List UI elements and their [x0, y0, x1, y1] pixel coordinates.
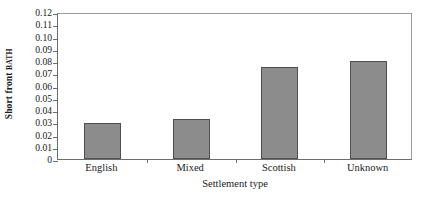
- y-axis-tick-mark: [53, 14, 58, 15]
- y-axis-tick-label: 0.11: [18, 20, 52, 30]
- y-axis-tick-mark: [53, 100, 58, 101]
- y-axis-tick-label: 0.01: [18, 143, 52, 153]
- x-axis-tick-label: Scottish: [235, 163, 324, 174]
- bar-series: [58, 14, 411, 159]
- y-axis-tick-label: 0.07: [18, 69, 52, 79]
- y-axis-tick-label: 0.09: [18, 45, 52, 55]
- x-axis-tick-label: Unknown: [323, 163, 412, 174]
- y-axis-tick-mark: [53, 26, 58, 27]
- x-axis-tick-label: Mixed: [146, 163, 235, 174]
- y-axis-tick-mark: [53, 39, 58, 40]
- y-axis-tick-mark: [53, 63, 58, 64]
- y-axis-tick-label: 0.08: [18, 57, 52, 67]
- y-axis-tick-label: 0.05: [18, 94, 52, 104]
- bar-chart: Short front BATH 00.010.020.030.040.050.…: [0, 0, 423, 199]
- bar: [350, 61, 387, 159]
- y-axis-tick-label: 0: [18, 155, 52, 165]
- y-axis-tick-label: 0.06: [18, 82, 52, 92]
- bar: [84, 123, 121, 159]
- plot-area: [57, 13, 412, 160]
- y-axis-tick-mark: [53, 124, 58, 125]
- x-axis-tick-label: English: [57, 163, 146, 174]
- y-axis-tick-mark: [53, 161, 58, 162]
- y-axis-tick-label: 0.03: [18, 118, 52, 128]
- y-axis-title-main: Short front: [3, 70, 13, 119]
- y-axis-tick-label: 0.12: [18, 8, 52, 18]
- y-axis-title: Short front BATH: [0, 0, 18, 168]
- y-axis-tick-mark: [53, 88, 58, 89]
- bar: [173, 119, 210, 159]
- y-axis-tick-mark: [53, 149, 58, 150]
- y-axis-tick-label: 0.04: [18, 106, 52, 116]
- y-axis-tick-mark: [53, 75, 58, 76]
- bar: [261, 67, 298, 159]
- y-axis-tick-label: 0.02: [18, 131, 52, 141]
- x-axis-title: Settlement type: [57, 179, 413, 190]
- y-axis-tick-labels: 00.010.020.030.040.050.060.070.080.090.1…: [18, 0, 52, 168]
- y-axis-tick-label: 0.10: [18, 33, 52, 43]
- y-axis-tick-mark: [53, 112, 58, 113]
- y-axis-title-smallcaps: BATH: [4, 49, 13, 71]
- y-axis-tick-mark: [53, 137, 58, 138]
- y-axis-tick-mark: [53, 51, 58, 52]
